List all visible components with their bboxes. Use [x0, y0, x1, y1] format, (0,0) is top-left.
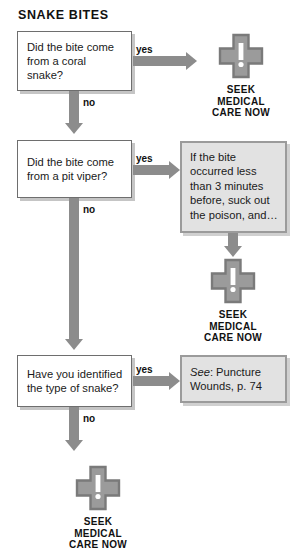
question-text-coral-snake: Did the bite come from a coral snake?	[27, 40, 124, 83]
arrow-shaft	[69, 91, 79, 123]
arrow-head	[224, 246, 242, 257]
arrow-label-no-coral-snake: no	[83, 97, 95, 108]
question-box-coral-snake[interactable]: Did the bite come from a coral snake?	[17, 31, 132, 91]
seek-line-3: CARE NOW	[52, 539, 144, 551]
question-text-identified-snake: Have you identified the type of snake?	[27, 367, 124, 395]
reference-see-italic: See	[190, 366, 210, 378]
medical-cross-alert-icon	[218, 33, 264, 79]
seek-line-3: CARE NOW	[195, 107, 287, 119]
seek-line-2: MEDICAL	[187, 321, 279, 333]
medical-cross-alert-icon	[210, 258, 256, 304]
arrow-head	[65, 440, 83, 451]
snake-bites-flowchart: SNAKE BITES Did the bite come from a cor…	[0, 0, 301, 558]
seek-line-3: CARE NOW	[187, 332, 279, 344]
arrow-shaft	[228, 233, 238, 246]
arrow-shaft	[69, 407, 79, 440]
medical-cross-alert-icon	[75, 465, 121, 511]
seek-line-1: SEEK	[195, 84, 287, 96]
seek-line-1: SEEK	[187, 309, 279, 321]
arrow-head	[169, 161, 180, 179]
arrow-label-no-identified-snake: no	[83, 413, 95, 424]
seek-label-3: SEEK MEDICAL CARE NOW	[52, 516, 144, 551]
arrow-shaft	[133, 56, 186, 66]
seek-line-2: MEDICAL	[52, 528, 144, 540]
reference-box-puncture-wounds[interactable]: See: Puncture Wounds, p. 74	[180, 355, 287, 403]
seek-line-1: SEEK	[52, 516, 144, 528]
arrow-label-yes-pit-viper: yes	[136, 153, 153, 164]
action-box-suck-poison[interactable]: If the bite occurred less than 3 minutes…	[180, 141, 287, 233]
seek-label-2: SEEK MEDICAL CARE NOW	[187, 309, 279, 344]
arrow-head	[65, 339, 83, 350]
seek-line-2: MEDICAL	[195, 96, 287, 108]
arrow-label-yes-identified-snake: yes	[136, 364, 153, 375]
question-text-pit-viper: Did the bite come from a pit viper?	[27, 155, 124, 183]
seek-label-1: SEEK MEDICAL CARE NOW	[195, 84, 287, 119]
seek-medical-care-block-1: SEEK MEDICAL CARE NOW	[195, 33, 287, 119]
arrow-shaft	[133, 165, 169, 175]
page-title: SNAKE BITES	[18, 8, 109, 22]
arrow-shaft	[69, 198, 79, 339]
arrow-label-yes-coral-snake: yes	[136, 44, 153, 55]
action-text-suck-poison: If the bite occurred less than 3 minutes…	[190, 150, 279, 222]
question-box-pit-viper[interactable]: Did the bite come from a pit viper?	[17, 140, 132, 198]
arrow-label-no-pit-viper: no	[83, 204, 95, 215]
question-box-identified-snake[interactable]: Have you identified the type of snake?	[17, 355, 132, 407]
seek-medical-care-block-3: SEEK MEDICAL CARE NOW	[52, 465, 144, 551]
arrow-shaft	[133, 376, 169, 386]
seek-medical-care-block-2: SEEK MEDICAL CARE NOW	[187, 258, 279, 344]
arrow-head	[169, 372, 180, 390]
arrow-head	[65, 123, 83, 134]
reference-text-puncture-wounds: See: Puncture Wounds, p. 74	[190, 365, 279, 394]
